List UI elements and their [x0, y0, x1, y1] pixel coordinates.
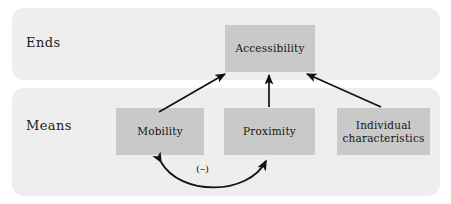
band-label-means: Means [26, 118, 72, 133]
tradeoff-sign-label: (–) [196, 163, 209, 174]
band-label-ends: Ends [26, 35, 60, 50]
node-accessibility-label: Accessibility [235, 42, 304, 55]
node-proximity[interactable]: Proximity [224, 108, 315, 155]
ends-means-diagram: Ends Means Accessibility Mobility Proxim… [0, 0, 451, 204]
node-accessibility[interactable]: Accessibility [225, 25, 315, 72]
node-individual-line1: Individual [356, 119, 411, 131]
node-mobility-label: Mobility [137, 125, 183, 138]
node-proximity-label: Proximity [243, 125, 296, 138]
node-mobility[interactable]: Mobility [116, 108, 204, 155]
node-individual-line2: characteristics [342, 132, 424, 144]
node-individual-characteristics-label: Individual characteristics [342, 119, 424, 145]
node-individual-characteristics[interactable]: Individual characteristics [337, 108, 430, 155]
